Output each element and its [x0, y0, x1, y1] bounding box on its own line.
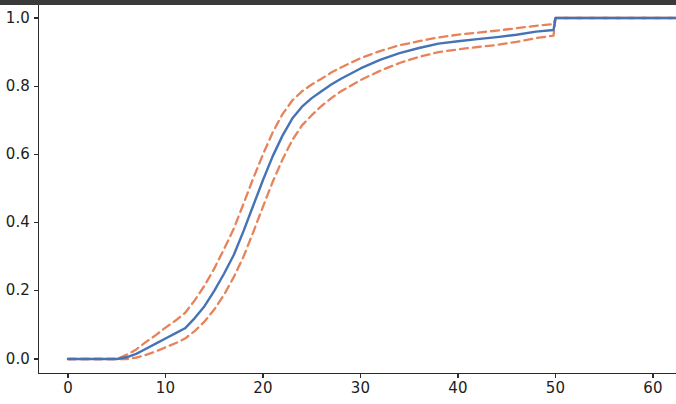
y-tick-label: 0.4 [6, 215, 30, 230]
y-axis-spine [38, 5, 39, 374]
x-tick-mark [360, 374, 361, 378]
x-tick-label: 30 [351, 381, 370, 396]
x-tick-mark [67, 374, 68, 378]
confidence-band-upper-path [68, 18, 676, 359]
y-tick-mark [34, 222, 38, 223]
y-tick-label: 0.2 [6, 283, 30, 298]
x-tick-label: 40 [448, 381, 467, 396]
plot-area [38, 5, 676, 373]
x-tick-mark [457, 374, 458, 378]
x-tick-label: 0 [63, 381, 73, 396]
x-tick-mark [555, 374, 556, 378]
x-axis-spine [38, 373, 676, 374]
x-tick-label: 60 [643, 381, 662, 396]
y-tick-label: 1.0 [6, 11, 30, 26]
x-tick-mark [262, 374, 263, 378]
y-tick-label: 0.6 [6, 147, 30, 162]
y-tick-mark [34, 154, 38, 155]
figure-canvas: 0.00.20.40.60.81.0 0102030405060 [0, 0, 676, 404]
y-tick-label: 0.8 [6, 79, 30, 94]
x-tick-label: 10 [156, 381, 175, 396]
confidence-band-lower-path [68, 18, 676, 359]
x-tick-label: 50 [546, 381, 565, 396]
x-tick-mark [652, 374, 653, 378]
y-tick-mark [34, 290, 38, 291]
chart-svg [38, 5, 676, 373]
estimate-line-path [68, 18, 676, 359]
y-tick-label: 0.0 [6, 352, 30, 367]
y-tick-mark [34, 358, 38, 359]
y-tick-mark [34, 17, 38, 18]
y-tick-mark [34, 86, 38, 87]
x-tick-label: 20 [253, 381, 272, 396]
x-tick-mark [165, 374, 166, 378]
